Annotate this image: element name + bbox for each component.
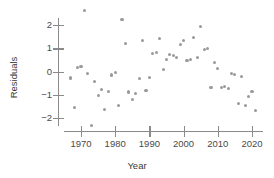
data-point bbox=[90, 124, 93, 127]
data-point bbox=[168, 53, 171, 56]
data-point bbox=[247, 95, 250, 98]
x-tick-mark bbox=[218, 126, 219, 137]
x-tick-mark bbox=[81, 126, 82, 137]
data-point bbox=[192, 36, 195, 39]
data-point bbox=[244, 104, 247, 107]
x-tick-mark bbox=[115, 126, 116, 137]
data-point bbox=[162, 68, 165, 71]
data-point bbox=[209, 86, 212, 89]
data-point bbox=[155, 51, 158, 54]
data-point bbox=[196, 56, 199, 59]
data-point bbox=[124, 42, 127, 45]
x-tick-label: 2020 bbox=[232, 139, 272, 149]
data-point bbox=[100, 88, 103, 91]
data-point bbox=[189, 58, 192, 61]
data-point bbox=[103, 108, 106, 111]
x-tick-mark bbox=[252, 126, 253, 137]
data-point bbox=[114, 71, 117, 74]
data-point bbox=[134, 92, 137, 95]
data-point bbox=[97, 94, 100, 97]
y-tick-mark bbox=[53, 118, 64, 119]
x-tick-mark bbox=[149, 126, 150, 137]
y-tick-label: −1 bbox=[41, 90, 52, 100]
data-point bbox=[158, 37, 161, 40]
y-tick-mark bbox=[53, 95, 64, 96]
y-tick-label: 0 bbox=[47, 67, 52, 77]
data-point bbox=[83, 9, 86, 12]
y-tick-mark bbox=[53, 72, 64, 73]
x-axis-spine bbox=[64, 131, 263, 132]
data-point bbox=[213, 61, 216, 64]
data-point bbox=[237, 102, 240, 105]
data-point bbox=[79, 65, 82, 68]
data-point bbox=[250, 90, 253, 93]
y-tick-label: −2 bbox=[41, 113, 52, 123]
residuals-scatter-chart: 210−1−2 197019801990200020102020 Residua… bbox=[0, 0, 274, 178]
plot-area: 210−1−2 197019801990200020102020 Residua… bbox=[0, 0, 274, 178]
data-point bbox=[206, 47, 209, 50]
data-point bbox=[151, 52, 154, 55]
data-point bbox=[233, 73, 236, 76]
data-point bbox=[216, 67, 219, 70]
data-point bbox=[93, 80, 96, 83]
data-point bbox=[199, 25, 202, 28]
y-axis-title: Residuals bbox=[8, 43, 19, 113]
y-tick-mark bbox=[53, 48, 64, 49]
data-point bbox=[110, 73, 113, 76]
data-point bbox=[117, 104, 120, 107]
x-tick-mark bbox=[184, 126, 185, 137]
data-point bbox=[165, 58, 168, 61]
data-point bbox=[175, 56, 178, 59]
data-point bbox=[73, 106, 76, 109]
x-axis-title: Year bbox=[0, 160, 274, 171]
data-point bbox=[141, 39, 144, 42]
data-point bbox=[107, 90, 110, 93]
data-point bbox=[182, 39, 185, 42]
y-tick-mark bbox=[53, 25, 64, 26]
data-point bbox=[86, 72, 89, 75]
data-point bbox=[138, 77, 141, 80]
data-point bbox=[179, 43, 182, 46]
data-point bbox=[120, 18, 123, 21]
data-point bbox=[240, 75, 243, 78]
data-point bbox=[127, 90, 130, 93]
data-point bbox=[69, 76, 72, 79]
data-point bbox=[148, 76, 151, 79]
data-point bbox=[254, 109, 257, 112]
data-point bbox=[144, 89, 147, 92]
data-point bbox=[223, 85, 226, 88]
data-point bbox=[227, 87, 230, 90]
data-point bbox=[131, 98, 134, 101]
y-tick-label: 1 bbox=[47, 43, 52, 53]
y-tick-label: 2 bbox=[47, 20, 52, 30]
